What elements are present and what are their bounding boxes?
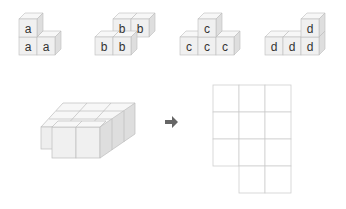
cube-label: c xyxy=(186,40,192,54)
grid-cell[interactable] xyxy=(239,85,265,112)
grid-cell[interactable] xyxy=(239,166,265,193)
grid-cell[interactable] xyxy=(265,166,291,193)
cube-label: b xyxy=(101,40,108,54)
cube-label: c xyxy=(222,40,228,54)
cube-label: a xyxy=(25,22,32,36)
figure-a: a a a xyxy=(19,13,61,55)
grid-cell[interactable] xyxy=(265,85,291,112)
cube-label: d xyxy=(271,40,278,54)
cube-label: d xyxy=(307,22,314,36)
cube-label: b xyxy=(137,22,144,36)
answer-grid xyxy=(213,85,291,193)
grid-cell[interactable] xyxy=(239,139,265,166)
assembled-block xyxy=(41,103,135,158)
puzzle-canvas: a a a b b b b c c c c d d d d xyxy=(0,0,346,209)
grid-cell[interactable] xyxy=(213,139,239,166)
grid-cell[interactable] xyxy=(239,112,265,139)
cube-label: a xyxy=(43,40,50,54)
cube-label: d xyxy=(289,40,296,54)
figure-d: d d d d xyxy=(265,13,325,55)
cube-label: a xyxy=(25,40,32,54)
cube-label: b xyxy=(119,22,126,36)
cube-label: c xyxy=(204,40,210,54)
grid-cell[interactable] xyxy=(265,139,291,166)
cube-label: b xyxy=(119,40,126,54)
cube-label: c xyxy=(204,22,210,36)
grid-cell[interactable] xyxy=(213,85,239,112)
grid-cell[interactable] xyxy=(213,112,239,139)
right-arrow-icon xyxy=(165,116,178,128)
figure-b: b b b b xyxy=(95,13,155,55)
figure-c: c c c c xyxy=(180,13,240,55)
grid-cell[interactable] xyxy=(265,112,291,139)
cube-label: d xyxy=(307,40,314,54)
